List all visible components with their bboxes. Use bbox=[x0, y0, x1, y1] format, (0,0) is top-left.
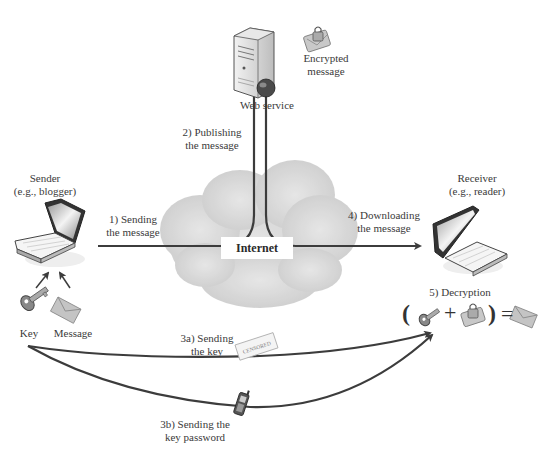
equation-close-paren: ) bbox=[488, 300, 496, 327]
sender-label: Sender (e.g., blogger) bbox=[5, 172, 85, 198]
step-1-line1: 1) Sending bbox=[98, 213, 168, 226]
encrypted-message-icon bbox=[303, 27, 331, 52]
step-3a-line2: the key bbox=[177, 345, 237, 358]
receiver-laptop-icon bbox=[433, 206, 507, 276]
step-3a-label: 3a) Sending the key bbox=[177, 332, 237, 358]
diagram-canvas: CENSORED bbox=[0, 0, 555, 452]
sender-label-line1: Sender bbox=[5, 172, 85, 185]
receiver-label-line2: (e.g., reader) bbox=[432, 185, 522, 198]
equation-open-paren: ( bbox=[402, 300, 410, 327]
internet-cloud bbox=[160, 160, 358, 308]
step-4-label: 4) Downloading the message bbox=[344, 209, 424, 235]
arrow-message-to-sender bbox=[60, 273, 70, 288]
step-3b-line2: key password bbox=[155, 431, 235, 444]
step-2-line1: 2) Publishing bbox=[176, 126, 248, 139]
step-3a-line1: 3a) Sending bbox=[177, 332, 237, 345]
step-4-line2: the message bbox=[344, 222, 424, 235]
internet-label: Internet bbox=[221, 237, 293, 259]
receiver-label-line1: Receiver bbox=[432, 172, 522, 185]
encrypted-message-label-line1: Encrypted bbox=[296, 52, 356, 65]
message-envelope-icon bbox=[50, 297, 80, 323]
encrypted-message-label: Encrypted message bbox=[296, 52, 356, 78]
step-1-label: 1) Sending the message bbox=[98, 213, 168, 239]
encrypted-message-label-line2: message bbox=[296, 65, 356, 78]
step-3b-label: 3b) Sending the key password bbox=[155, 418, 235, 444]
server-icon bbox=[234, 28, 275, 98]
sender-laptop-icon bbox=[15, 199, 85, 267]
decryption-encrypted-message-icon bbox=[460, 304, 485, 327]
step-1-line2: the message bbox=[98, 226, 168, 239]
decrypted-message-icon bbox=[510, 306, 537, 328]
key-label: Key bbox=[14, 327, 44, 340]
step-5-label: 5) Decryption bbox=[420, 286, 500, 299]
step-2-line2: the message bbox=[176, 139, 248, 152]
mobile-phone-icon bbox=[233, 388, 251, 416]
web-service-label: Web service bbox=[232, 99, 302, 112]
sender-label-line2: (e.g., blogger) bbox=[5, 185, 85, 198]
receiver-label: Receiver (e.g., reader) bbox=[432, 172, 522, 198]
step-3b-line1: 3b) Sending the bbox=[155, 418, 235, 431]
decryption-key-icon bbox=[417, 305, 442, 327]
equation-plus: + bbox=[444, 300, 456, 326]
arrow-key-to-sender bbox=[36, 273, 48, 288]
step-2-label: 2) Publishing the message bbox=[176, 126, 248, 152]
key-icon bbox=[18, 283, 52, 313]
step-4-line1: 4) Downloading bbox=[344, 209, 424, 222]
equation-equals: = bbox=[501, 301, 513, 327]
message-label: Message bbox=[48, 327, 98, 340]
